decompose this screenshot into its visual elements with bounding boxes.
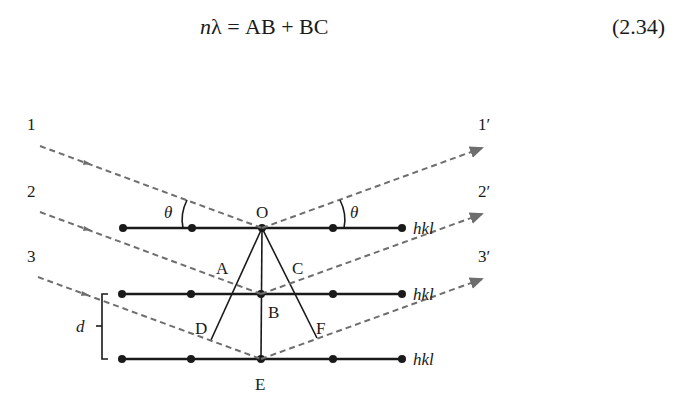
incident-ray-3 xyxy=(38,277,261,359)
atom xyxy=(118,290,126,298)
incident-ray-label-1: 1 xyxy=(27,115,36,134)
point-label-D: D xyxy=(195,319,207,338)
atom xyxy=(187,355,195,363)
bragg-diagram: 1 2 3 1′ 2′ 3′ O A B C D E F θ θ d hkl h… xyxy=(0,0,687,403)
line-OD xyxy=(211,228,262,340)
atom xyxy=(398,355,406,363)
reflected-ray-1 xyxy=(262,148,482,228)
theta-label-right: θ xyxy=(350,203,358,222)
atom xyxy=(329,355,337,363)
incident-ray-1 xyxy=(40,146,262,228)
reflected-ray-2 xyxy=(261,214,482,294)
point-label-E: E xyxy=(255,375,265,394)
atom xyxy=(119,224,127,232)
atom xyxy=(187,290,195,298)
spacing-bracket xyxy=(96,294,108,359)
atom xyxy=(118,355,126,363)
theta-arc-left xyxy=(182,200,187,228)
atom xyxy=(188,224,196,232)
atom xyxy=(398,290,406,298)
plane-label-3: hkl xyxy=(413,350,434,369)
reflected-ray-label-2: 2′ xyxy=(478,182,490,201)
d-bracket xyxy=(102,294,108,359)
point-label-C: C xyxy=(292,259,303,278)
spacing-label: d xyxy=(76,317,85,336)
theta-arc-right xyxy=(340,200,345,228)
reflected-rays xyxy=(261,148,482,359)
incident-ray-label-2: 2 xyxy=(27,182,36,201)
reflected-ray-label-1: 1′ xyxy=(478,115,490,134)
incident-ray-label-3: 3 xyxy=(27,247,36,266)
point-label-O: O xyxy=(256,203,268,222)
point-label-A: A xyxy=(216,259,229,278)
point-label-B: B xyxy=(268,303,279,322)
incident-rays xyxy=(38,146,262,359)
atom xyxy=(398,224,406,232)
incident-ray-2 xyxy=(40,212,261,294)
theta-label-left: θ xyxy=(164,203,172,222)
reflected-ray-label-3: 3′ xyxy=(478,247,490,266)
atom xyxy=(329,224,337,232)
point-label-F: F xyxy=(316,319,325,338)
plane-label-2: hkl xyxy=(413,285,434,304)
atom xyxy=(329,290,337,298)
plane-label-1: hkl xyxy=(413,219,434,238)
